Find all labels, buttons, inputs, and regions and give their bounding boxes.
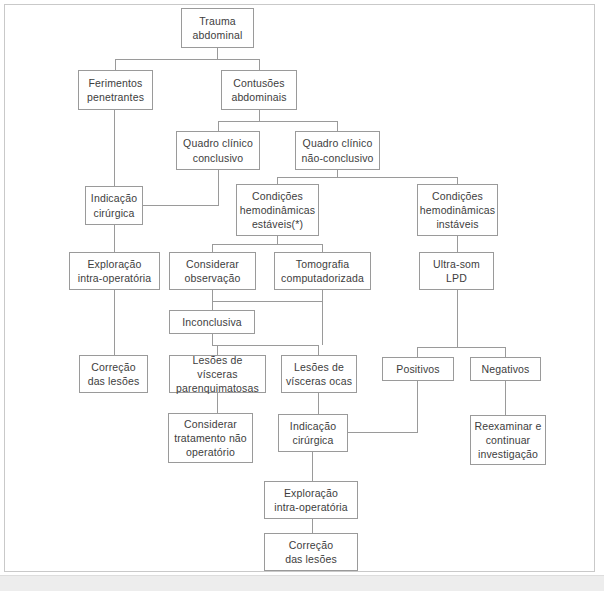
node-quadro-conclusivo: Quadro clínico conclusivo [176, 131, 260, 170]
flowchart-nodes: Trauma abdominalFerimentos penetrantesCo… [0, 0, 604, 591]
page-bottom-band [0, 575, 604, 591]
node-lesoes-parenq: Lesões de vísceras parenquimatosas [169, 355, 266, 393]
node-exploracao-2: Exploração intra-operatória [264, 481, 358, 519]
node-quadro-nao: Quadro clínico não-conclusivo [295, 131, 380, 170]
node-trauma: Trauma abdominal [181, 8, 254, 48]
node-correcao-1: Correção das lesões [79, 355, 148, 393]
node-lesoes-ocas: Lesões de vísceras ocas [281, 355, 357, 393]
node-indicacao-2: Indicação cirúrgica [278, 414, 348, 452]
node-inconclusiva: Inconclusiva [169, 310, 255, 334]
node-ferimentos: Ferimentos penetrantes [78, 70, 153, 110]
node-positivos: Positivos [382, 357, 454, 381]
node-considerar-obs: Considerar observação [169, 252, 256, 290]
node-cond-estaveis: Condições hemodinâmicas estáveis(*) [236, 184, 319, 236]
node-reexaminar: Reexaminar e continuar investigação [470, 415, 546, 465]
node-cond-instaveis: Condições hemodinâmicas instáveis [417, 184, 498, 236]
flowchart-page: Trauma abdominalFerimentos penetrantesCo… [0, 0, 604, 591]
node-ultrassom: Ultra-som LPD [419, 252, 494, 290]
node-contusoes: Contusões abdominais [221, 70, 297, 110]
node-negativos: Negativos [470, 357, 541, 381]
node-correcao-2: Correção das lesões [264, 533, 358, 571]
node-tomografia: Tomografia computadorizada [274, 252, 371, 290]
node-considerar-trat: Considerar tratamento não operatório [168, 413, 253, 463]
node-exploracao-1: Exploração intra-operatória [69, 252, 160, 290]
node-indicacao-1: Indicação cirúrgica [85, 186, 143, 225]
